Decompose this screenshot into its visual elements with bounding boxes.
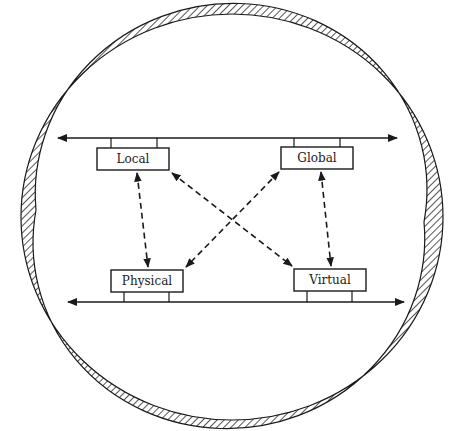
enclosure-ring (21, 3, 443, 428)
node-label-global: Global (297, 151, 336, 165)
edge-local-virtual (172, 173, 292, 266)
node-virtual[interactable]: Virtual (294, 269, 366, 302)
node-global[interactable]: Global (281, 138, 353, 169)
node-label-physical: Physical (122, 274, 172, 288)
dashed-edges (137, 172, 331, 267)
node-label-local: Local (117, 152, 150, 166)
node-local[interactable]: Local (97, 138, 169, 170)
node-label-virtual: Virtual (308, 273, 351, 287)
edge-local-physical (137, 173, 148, 267)
diagram-canvas: Local Global Physical Virtual (0, 0, 462, 431)
edge-global-physical (186, 172, 279, 267)
node-physical[interactable]: Physical (111, 270, 183, 302)
edge-global-virtual (321, 172, 331, 266)
